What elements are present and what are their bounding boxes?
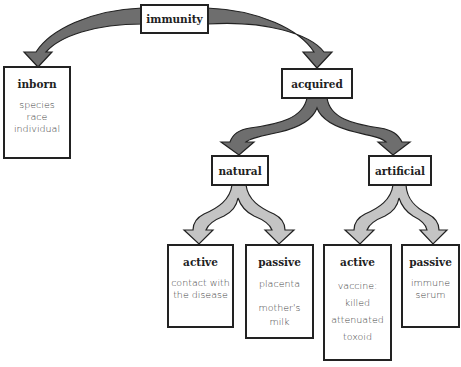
arrow-acquired-split (221, 98, 410, 155)
node-natural: natural (211, 155, 269, 186)
node-inborn: inborn species race individual (3, 66, 71, 159)
node-artificial-active: active vaccine: killed attenuated toxoid (323, 244, 392, 361)
node-artificial: artificial (368, 155, 432, 186)
node-natural-active-item: the disease (169, 289, 232, 301)
node-natural-active-item: contact with (169, 277, 232, 289)
node-immunity: immunity (140, 4, 209, 34)
node-natural-passive: passive placenta mother's milk (245, 244, 314, 339)
arrow-immunity-to-acquired (207, 8, 332, 68)
node-natural-label: natural (218, 165, 261, 177)
node-artificial-active-item: killed (325, 294, 390, 311)
node-inborn-item: species (5, 99, 69, 111)
arrow-artificial-split (345, 185, 447, 244)
node-inborn-item: race (5, 111, 69, 123)
node-artificial-active-item: vaccine: (325, 277, 390, 294)
arrow-immunity-to-inborn (24, 8, 142, 67)
node-acquired: acquired (281, 68, 353, 99)
node-artificial-active-item: toxoid (325, 328, 390, 345)
node-artificial-passive-item: immune (403, 277, 458, 289)
node-inborn-title: inborn (5, 78, 69, 90)
node-artificial-passive: passive immune serum (401, 244, 460, 328)
node-natural-active: active contact with the disease (167, 244, 234, 328)
node-natural-active-title: active (169, 256, 232, 268)
node-natural-passive-title: passive (247, 256, 312, 268)
node-artificial-active-item: attenuated (325, 311, 390, 328)
node-acquired-label: acquired (291, 78, 343, 90)
node-artificial-label: artificial (375, 165, 425, 177)
node-immunity-label: immunity (146, 13, 202, 25)
node-artificial-passive-item: serum (403, 289, 458, 301)
node-natural-passive-item: mother's milk (247, 301, 312, 329)
node-natural-passive-item: placenta (247, 277, 312, 291)
node-artificial-passive-title: passive (403, 256, 458, 268)
arrow-natural-split (184, 185, 294, 244)
node-inborn-item: individual (5, 123, 69, 135)
node-artificial-active-title: active (325, 256, 390, 268)
